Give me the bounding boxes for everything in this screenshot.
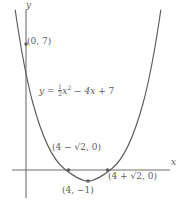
equation-label: y = 1 2 x2 − 4x + 7 <box>39 84 114 98</box>
x-axis-label: x <box>171 158 176 167</box>
label-root-right: (4 + √2, 0) <box>108 172 157 181</box>
y-axis-label: y <box>26 1 31 10</box>
parabola-figure: y x (0, 7) (4 − √2, 0) (4 + √2, 0) (4, −… <box>0 0 182 204</box>
label-vertex: (4, −1) <box>62 186 94 195</box>
equation-exponent: 2 <box>67 84 71 91</box>
equation-lhs: y <box>39 86 44 96</box>
label-root-left-tail: , 0) <box>86 142 101 152</box>
label-y-intercept: (0, 7) <box>27 37 51 46</box>
point-marker-root-left <box>67 168 70 171</box>
label-root-left: (4 − √2, 0) <box>52 143 101 152</box>
label-root-right-lead: (4 + <box>108 171 131 181</box>
point-marker-vertex <box>86 179 89 182</box>
equation-equals: = <box>47 86 55 96</box>
label-root-left-lead: (4 − <box>52 142 75 152</box>
equation-linear-term: − 4x <box>74 86 95 96</box>
label-root-right-tail: , 0) <box>142 171 157 181</box>
equation-constant-term: + 7 <box>98 86 114 96</box>
